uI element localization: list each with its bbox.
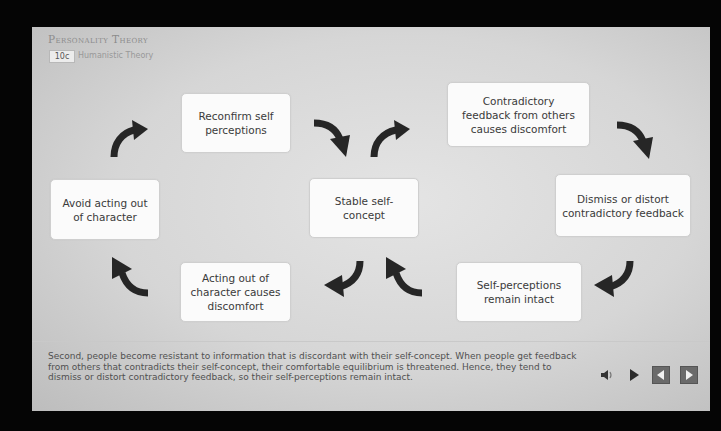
arrow-curve-up-right-icon [106, 117, 150, 161]
arrow-curve-up-left-icon [108, 255, 152, 299]
node-contradictory-feedback: Contradictory feedback from others cause… [447, 82, 590, 147]
node-dismiss-label: Dismiss or distort contradictory feedbac… [562, 192, 684, 220]
lesson-badge: 10c [49, 50, 75, 63]
arrow-curve-down-right-icon [615, 117, 659, 161]
node-reconfirm: Reconfirm self perceptions [181, 93, 291, 153]
node-avoid-acting: Avoid acting out of character [50, 179, 160, 240]
node-stable-label: Stable self-concept [328, 194, 400, 222]
arrow-curve-down-left-icon [322, 255, 366, 299]
arrow-curve-up-right-icon [368, 117, 412, 161]
arrow-curve-up-left-icon [382, 255, 426, 299]
node-acting-out: Acting out of character causes discomfor… [180, 262, 291, 322]
node-avoid-label: Avoid acting out of character [60, 196, 150, 224]
arrow-curve-down-right-icon [312, 115, 356, 159]
node-dismiss-distort: Dismiss or distort contradictory feedbac… [555, 174, 691, 237]
node-self-perceptions-intact: Self-perceptions remain intact [456, 262, 582, 322]
next-icon [684, 370, 694, 380]
previous-slide-button[interactable] [652, 366, 670, 384]
audio-button[interactable] [600, 367, 616, 383]
course-title: Personality Theory [48, 33, 148, 45]
arrow-curve-down-left-icon [592, 255, 636, 299]
previous-icon [656, 370, 666, 380]
node-stable-self-concept: Stable self-concept [309, 178, 419, 238]
next-slide-button[interactable] [680, 366, 698, 384]
node-acting-out-label: Acting out of character causes discomfor… [186, 271, 286, 313]
node-intact-label: Self-perceptions remain intact [471, 278, 567, 306]
node-contradictory-label: Contradictory feedback from others cause… [458, 94, 580, 136]
node-reconfirm-label: Reconfirm self perceptions [196, 109, 276, 137]
player-controls [600, 366, 698, 384]
caption-divider [32, 341, 710, 342]
play-button[interactable] [626, 367, 642, 383]
narration-caption: Second, people become resistant to infor… [48, 351, 588, 383]
lesson-title: Humanistic Theory [78, 50, 153, 62]
slide-screen: Personality Theory 10c Humanistic Theory… [32, 27, 710, 411]
play-icon [629, 369, 639, 381]
speaker-icon [600, 369, 616, 381]
